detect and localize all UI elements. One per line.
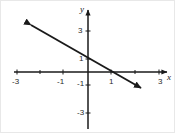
y-tick-label-neg1: -1 xyxy=(77,80,84,88)
plotted-line xyxy=(31,25,141,88)
coordinate-plane-svg xyxy=(1,1,175,133)
graph-figure: y x -3 -1 1 3 3 1 -1 -3 xyxy=(0,0,175,133)
y-axis-label: y xyxy=(80,5,84,14)
x-axis-group xyxy=(14,70,167,75)
x-tick-label-pos1: 1 xyxy=(109,78,113,86)
x-tick-label-pos3: 3 xyxy=(158,78,162,86)
y-tick-label-neg3: -3 xyxy=(77,109,84,117)
x-tick-label-neg3: -3 xyxy=(12,78,19,86)
y-tick-label-pos3: 3 xyxy=(78,27,82,35)
x-axis-label: x xyxy=(167,73,171,82)
y-tick-label-pos1: 1 xyxy=(79,55,83,63)
y-axis-group xyxy=(86,10,91,129)
x-tick-label-neg1: -1 xyxy=(57,78,64,86)
